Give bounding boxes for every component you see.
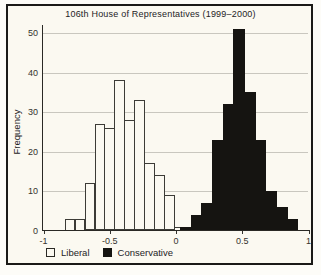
y-tick-label-0: 0 — [20, 226, 38, 236]
x-tick-label--1: -1 — [39, 236, 47, 246]
y-tick-label-40: 40 — [20, 68, 38, 78]
filled-square-icon — [103, 248, 112, 257]
x-tick-label-0.5: 0.5 — [236, 236, 249, 246]
x-tick-mark--1 — [44, 231, 45, 234]
y-tick-label-30: 30 — [20, 107, 38, 117]
histogram-chart: 106th House of Representatives (1999–200… — [0, 0, 321, 275]
legend-item-conservative: Conservative — [103, 247, 173, 258]
conservative-bar-10 — [287, 219, 299, 231]
x-tick-label-1: 1 — [306, 236, 311, 246]
gridline-y-30 — [42, 112, 308, 113]
legend: Liberal Conservative — [46, 247, 173, 258]
x-tick-mark-1 — [309, 231, 310, 234]
gridline-y-40 — [42, 73, 308, 74]
y-tick-label-10: 10 — [20, 186, 38, 196]
x-tick-mark--0.5 — [110, 231, 111, 234]
gridline-y-20 — [42, 152, 308, 153]
gridline-y-50 — [42, 33, 308, 34]
y-axis-line — [42, 25, 43, 231]
liberal-bar-10 — [164, 195, 175, 231]
x-tick-label--0.5: -0.5 — [102, 236, 118, 246]
legend-item-liberal: Liberal — [46, 247, 90, 258]
x-tick-label-0: 0 — [173, 236, 178, 246]
legend-label-liberal: Liberal — [61, 247, 90, 258]
open-square-icon — [46, 248, 55, 257]
x-tick-mark-0 — [176, 231, 177, 234]
y-tick-label-50: 50 — [20, 28, 38, 38]
chart-title: 106th House of Representatives (1999–200… — [0, 9, 321, 19]
legend-label-conservative: Conservative — [118, 247, 173, 258]
x-tick-mark-0.5 — [242, 231, 243, 234]
y-tick-label-20: 20 — [20, 147, 38, 157]
